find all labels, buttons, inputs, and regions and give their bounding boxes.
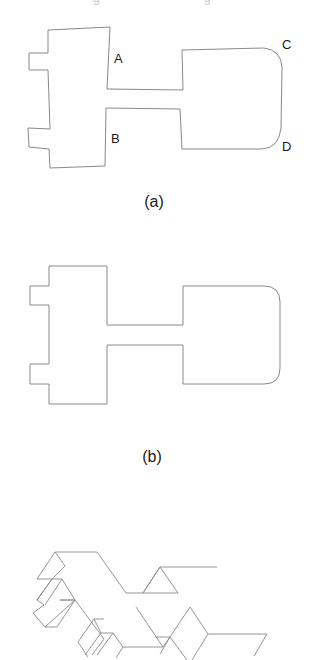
vertex-label-a: A [114,51,123,66]
caption-b: (b) [142,448,162,466]
vertex-label-d: D [282,139,291,154]
rectified-outline-b [30,266,280,404]
caption-a: (a) [144,193,164,211]
diagram-canvas [0,0,314,660]
vertex-label-b: B [111,131,120,146]
sketch-outline-a [28,27,282,168]
vertex-label-c: C [282,37,291,52]
isometric-3d-view [33,552,267,660]
